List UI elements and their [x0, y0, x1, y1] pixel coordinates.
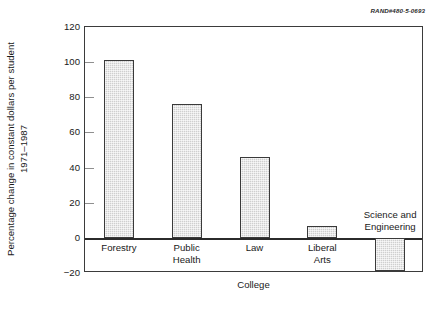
category-label-line: Health	[173, 254, 201, 267]
y-axis-title-line2: 1971–1987	[17, 42, 30, 256]
category-label: PublicHealth	[173, 242, 201, 267]
y-tick-mark	[85, 168, 94, 169]
category-label: Science andEngineering	[364, 209, 417, 234]
y-tick-label: 40	[36, 161, 80, 172]
category-label-line: Engineering	[364, 221, 417, 234]
y-tick-mark	[85, 62, 94, 63]
y-tick-mark	[85, 97, 94, 98]
category-label-line: Public	[173, 242, 201, 255]
zero-baseline	[85, 238, 422, 240]
y-axis-title-line1: Percentage change in constant dollars pe…	[4, 42, 17, 256]
rand-source-code: RAND#480-5-0693	[371, 7, 425, 14]
bar	[172, 104, 202, 238]
bar	[375, 238, 405, 271]
y-tick-mark	[85, 203, 94, 204]
x-axis-title: College	[84, 279, 423, 290]
category-label: LiberalArts	[308, 242, 337, 267]
category-label: Law	[246, 242, 264, 255]
plot-area: ForestryPublicHealthLawLiberalArtsScienc…	[84, 26, 423, 272]
bar-chart-figure: RAND#480-5-0693 Percentage change in con…	[0, 0, 434, 310]
y-tick-label: 100	[36, 56, 80, 67]
bar	[104, 60, 134, 237]
y-tick-label: 0	[36, 231, 80, 242]
y-tick-mark	[85, 132, 94, 133]
category-label-line: Science and	[364, 209, 417, 222]
y-axis-tick-labels: 120100806040200−20	[34, 0, 80, 310]
category-label-line: Law	[246, 242, 264, 255]
category-label-line: Forestry	[101, 242, 136, 255]
category-label-line: Arts	[308, 254, 337, 267]
y-axis-title: Percentage change in constant dollars pe…	[0, 26, 34, 272]
bar	[240, 157, 270, 238]
y-tick-label: 20	[36, 196, 80, 207]
bar	[307, 226, 337, 238]
category-label-line: Liberal	[308, 242, 337, 255]
y-tick-label: 80	[36, 91, 80, 102]
category-label: Forestry	[101, 242, 136, 255]
y-tick-label: −20	[36, 267, 80, 278]
y-tick-label: 60	[36, 126, 80, 137]
y-tick-label: 120	[36, 21, 80, 32]
